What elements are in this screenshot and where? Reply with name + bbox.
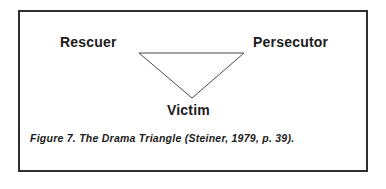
- figure-caption: Figure 7. The Drama Triangle (Steiner, 1…: [30, 132, 294, 145]
- role-label-victim: Victim: [167, 103, 210, 117]
- figure-canvas: Rescuer Persecutor Victim Figure 7. The …: [0, 0, 386, 189]
- role-label-persecutor: Persecutor: [253, 35, 328, 49]
- inverted-triangle-icon: [130, 45, 254, 107]
- role-label-rescuer: Rescuer: [60, 35, 117, 49]
- triangle-outline: [139, 53, 244, 98]
- drama-triangle-diagram: Rescuer Persecutor Victim: [0, 0, 386, 189]
